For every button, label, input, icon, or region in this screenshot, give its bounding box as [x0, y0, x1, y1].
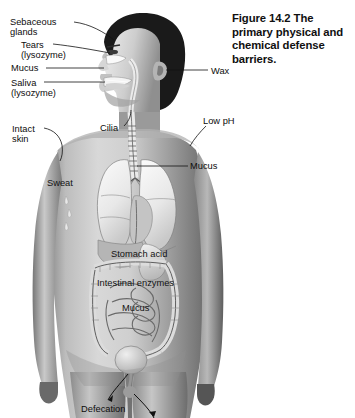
label-stomach-acid: Stomach acid — [111, 249, 167, 259]
label-mucus-intestinal: Mucus — [122, 303, 149, 313]
label-mucus-respiratory: Mucus — [190, 161, 217, 171]
label-defecation: Defecation — [81, 404, 125, 414]
label-intact-skin: Intact skin — [12, 124, 35, 145]
head-sagittal — [98, 13, 185, 112]
label-sebaceous-glands: Sebaceous glands — [10, 17, 57, 38]
figure-container: Figure 14.2 The primary physical and che… — [0, 0, 355, 418]
label-tears: Tears (lysozyme) — [21, 40, 66, 61]
genitalia — [123, 386, 137, 398]
label-wax: Wax — [211, 66, 229, 76]
label-saliva: Saliva (lysozyme) — [11, 78, 56, 99]
label-sweat: Sweat — [47, 178, 73, 188]
label-mucus-nasal: Mucus — [11, 63, 38, 73]
label-cilia: Cilia — [100, 123, 118, 133]
label-intestinal-enzymes: Intestinal enzymes — [97, 278, 174, 288]
label-low-ph: Low pH — [203, 116, 235, 126]
body-figure — [33, 13, 224, 418]
figure-caption: Figure 14.2 The primary physical and che… — [232, 12, 350, 66]
